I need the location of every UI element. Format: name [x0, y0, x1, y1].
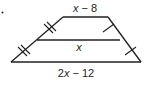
top-base-label: x − 8: [72, 2, 97, 14]
bullet-dot: [2, 12, 4, 14]
single-tick-upper-right: [103, 24, 114, 32]
midsegment-label: x: [75, 41, 82, 53]
trapezoid-diagram: x − 8 x 2x − 12: [0, 0, 146, 90]
bottom-base-label: 2x − 12: [58, 67, 94, 79]
